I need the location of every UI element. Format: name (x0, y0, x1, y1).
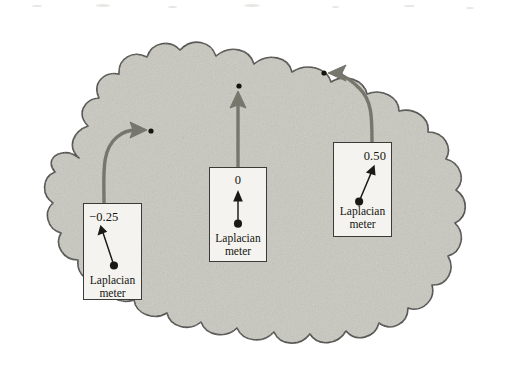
laplacian-meter-right[interactable]: 0.50 Laplacian meter (333, 142, 392, 237)
meter-caption-right-line1: Laplacian (334, 205, 391, 218)
meter-caption-left: Laplacian meter (84, 274, 141, 300)
meter-caption-left-line2: meter (84, 287, 141, 300)
meter-caption-center: Laplacian meter (210, 232, 266, 258)
field-point-left (148, 128, 153, 133)
field-point-center (236, 83, 241, 88)
figure-canvas: −0.25 Laplacian meter 0 Laplacian meter … (0, 0, 507, 391)
meter-caption-left-line1: Laplacian (84, 274, 141, 287)
meter-caption-right-line2: meter (334, 218, 391, 231)
meter-caption-center-line2: meter (210, 245, 266, 258)
meter-reading-left: −0.25 (84, 211, 118, 224)
field-point-right (321, 70, 326, 75)
laplacian-meter-center[interactable]: 0 Laplacian meter (209, 167, 267, 262)
meter-reading-right: 0.50 (364, 150, 391, 163)
meter-caption-center-line1: Laplacian (210, 232, 266, 245)
meter-reading-center: 0 (210, 174, 266, 187)
laplacian-meter-left[interactable]: −0.25 Laplacian meter (83, 203, 142, 300)
meter-caption-right: Laplacian meter (334, 205, 391, 231)
